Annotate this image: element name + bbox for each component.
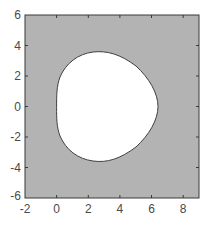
x-tick-label: 4 (117, 202, 124, 216)
x-tick-label: 2 (85, 202, 92, 216)
y-tick-label: 6 (14, 8, 21, 22)
chart: -2 0 2 4 6 8 6 4 2 0 -2 -4 -6 (0, 0, 209, 225)
y-tick-label: -2 (10, 130, 21, 144)
x-tick-label: 0 (53, 202, 60, 216)
y-tick-label: 2 (14, 69, 21, 83)
y-tick-label: -6 (10, 189, 21, 203)
y-tick-label: 0 (14, 100, 21, 114)
y-tick-label: 4 (14, 39, 21, 53)
x-tick-label: 8 (180, 202, 187, 216)
x-tick-label: -2 (20, 202, 31, 216)
x-tick-label: 6 (148, 202, 155, 216)
y-tick-label: -4 (10, 161, 21, 175)
